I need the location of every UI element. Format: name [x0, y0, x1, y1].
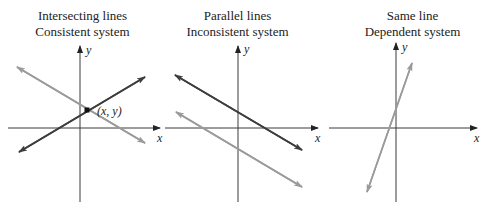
panel-title: Intersecting lines Consistent system: [0, 8, 165, 40]
title-line-1: Parallel lines: [160, 8, 315, 24]
title-line-1: Same line: [340, 8, 485, 24]
panel-2-title-area: Parallel lines Inconsistent system: [160, 0, 315, 209]
title-line-2: Dependent system: [340, 24, 485, 40]
title-line-2: Consistent system: [0, 24, 165, 40]
title-line-1: Intersecting lines: [0, 8, 165, 24]
panel-3-title-area: Same line Dependent system: [340, 0, 485, 209]
x-axis-label: x: [314, 131, 321, 145]
panel-title: Parallel lines Inconsistent system: [160, 8, 315, 40]
title-line-2: Inconsistent system: [160, 24, 315, 40]
panel-1-title-area: Intersecting lines Consistent system: [0, 0, 165, 209]
panel-title: Same line Dependent system: [340, 8, 485, 40]
